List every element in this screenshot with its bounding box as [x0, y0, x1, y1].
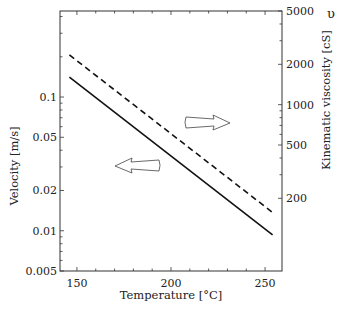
left-y-axis-label: Velocity [m/s]: [7, 126, 21, 206]
y-tick-label: 0.01: [33, 225, 58, 238]
velocity-line: [69, 77, 272, 235]
right-y-axis-label: Kinematic viscosity [cS]: [319, 30, 333, 170]
right-arrow-icon: [185, 115, 230, 130]
viscosity-line: [69, 55, 274, 214]
y-tick-label: 0.05: [33, 131, 58, 144]
y-tick-label: 0.1: [40, 91, 58, 104]
right-y-axis-ticks: 500020001000500200: [278, 5, 314, 205]
y2-tick-label: 5000: [286, 5, 314, 18]
y2-tick-label: 2000: [286, 58, 314, 71]
left-arrow-icon: [115, 158, 160, 173]
plot-frame: [60, 11, 282, 271]
x-axis-label: Temperature [°C]: [120, 288, 223, 302]
chart: 150200250 0.10.050.020.010.005 500020001…: [0, 0, 341, 314]
viscosity-symbol: υ: [327, 6, 335, 21]
y2-tick-label: 1000: [286, 99, 314, 112]
plot-border: [60, 11, 282, 271]
left-y-axis-ticks: 0.10.050.020.010.005: [26, 17, 65, 278]
y2-tick-label: 200: [286, 192, 307, 205]
x-tick-label: 250: [255, 277, 276, 290]
data-series: [69, 55, 274, 235]
x-tick-label: 150: [66, 277, 87, 290]
y-tick-label: 0.005: [26, 265, 58, 278]
y2-tick-label: 500: [286, 139, 307, 152]
x-axis-ticks: 150200250: [66, 11, 275, 290]
y-tick-label: 0.02: [33, 184, 58, 197]
